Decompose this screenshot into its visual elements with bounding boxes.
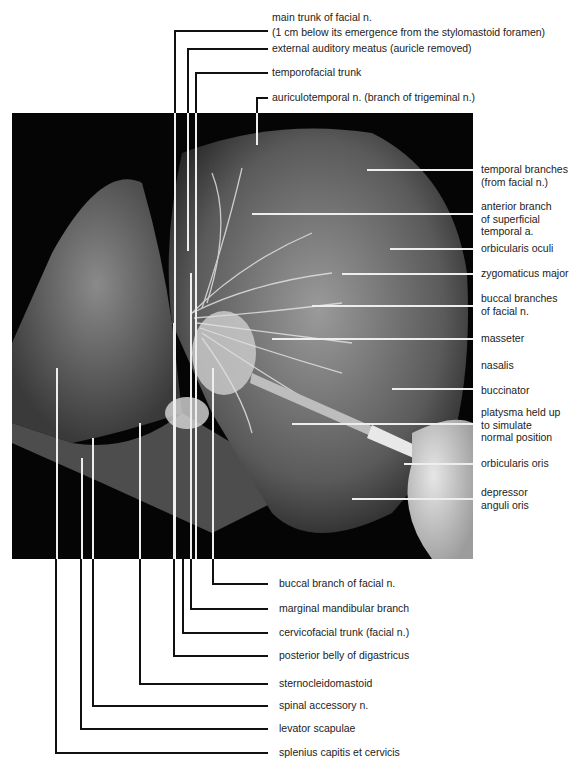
leader-splenius-v xyxy=(55,559,57,752)
label-line: masseter xyxy=(481,332,524,345)
label-external-auditory-meatus: external auditory meatus (auricle remove… xyxy=(272,42,472,55)
leader-buccal-branch-inside xyxy=(212,368,214,559)
label-line: spinal accessory n. xyxy=(279,699,368,712)
leader-marginal-h xyxy=(190,608,268,610)
leader-spinal-accessory-h xyxy=(92,705,268,707)
label-line: auriculotemporal n. (branch of trigemina… xyxy=(272,91,475,104)
leader-external-auditory-inside xyxy=(187,113,189,251)
leader-depressor xyxy=(352,498,473,500)
leader-orbicularis-oculi xyxy=(390,248,473,250)
label-line: depressor xyxy=(481,486,529,499)
label-line: posterior belly of digastricus xyxy=(279,649,409,662)
label-cervicofacial-trunk: cervicofacial trunk (facial n.) xyxy=(279,626,409,639)
label-buccal-branches: buccal branches of facial n. xyxy=(481,292,557,317)
leader-posterior-belly-inside xyxy=(173,323,175,559)
label-line: sternocleidomastoid xyxy=(279,677,372,690)
label-line: temporal branches xyxy=(481,163,568,176)
leader-zygomaticus xyxy=(342,273,473,275)
label-masseter: masseter xyxy=(481,332,524,345)
label-line: levator scapulae xyxy=(279,722,355,735)
label-nasalis: nasalis xyxy=(481,359,514,372)
leader-splenius-inside xyxy=(56,368,58,559)
leader-levator-v xyxy=(80,559,82,728)
label-line: buccal branches xyxy=(481,292,557,305)
label-orbicularis-oris: orbicularis oris xyxy=(481,457,549,470)
label-line: orbicularis oculi xyxy=(481,242,553,255)
leader-auriculotemporal-inside xyxy=(256,113,258,145)
label-line: anterior branch xyxy=(481,200,552,213)
leader-temporal-branches xyxy=(367,169,473,171)
leader-marginal-inside xyxy=(190,273,192,559)
label-line: buccinator xyxy=(481,384,529,397)
label-line: anguli oris xyxy=(481,499,529,512)
label-marginal-mandibular: marginal mandibular branch xyxy=(279,602,409,615)
leader-posterior-belly-h xyxy=(173,655,268,657)
leader-platysma xyxy=(292,423,473,425)
label-line: orbicularis oris xyxy=(481,457,549,470)
label-platysma: platysma held up to simulate normal posi… xyxy=(481,406,560,444)
leader-scm-h xyxy=(139,683,268,685)
label-line: zygomaticus major xyxy=(481,267,569,280)
label-levator-scapulae: levator scapulae xyxy=(279,722,355,735)
leader-marginal-v xyxy=(190,559,192,609)
leader-cervicofacial-v xyxy=(182,559,184,632)
leader-auriculotemporal-h xyxy=(256,97,268,99)
label-line: splenius capitis et cervicis xyxy=(279,746,400,759)
label-spinal-accessory: spinal accessory n. xyxy=(279,699,368,712)
leader-main-trunk-v xyxy=(174,30,176,113)
label-temporofacial-trunk: temporofacial trunk xyxy=(272,66,361,79)
leader-temporofacial-h xyxy=(195,72,268,74)
label-anterior-branch-sta: anterior branch of superficial temporal … xyxy=(481,200,552,238)
label-line: temporal a. xyxy=(481,225,552,238)
leader-temporofacial-v xyxy=(195,72,197,113)
leader-buccal-branch-h xyxy=(212,583,268,585)
label-line: (from facial n.) xyxy=(481,176,568,189)
label-line: main trunk of facial n. xyxy=(272,11,545,24)
label-line: buccal branch of facial n. xyxy=(279,577,395,590)
leader-buccinator xyxy=(392,388,473,390)
leader-orbicularis-oris xyxy=(404,463,473,465)
leader-anterior-branch xyxy=(252,213,473,215)
label-line: cervicofacial trunk (facial n.) xyxy=(279,626,409,639)
label-splenius: splenius capitis et cervicis xyxy=(279,746,400,759)
leader-scm-inside xyxy=(139,423,141,559)
label-line: of facial n. xyxy=(481,305,557,318)
label-line: normal position xyxy=(481,431,560,444)
leader-buccal-branches xyxy=(312,305,473,307)
label-main-trunk-facial: main trunk of facial n. (1 cm below its … xyxy=(272,11,545,38)
label-zygomaticus-major: zygomaticus major xyxy=(481,267,569,280)
leader-spinal-accessory-inside xyxy=(92,438,94,559)
leader-auriculotemporal-v xyxy=(256,97,258,113)
label-buccal-branch: buccal branch of facial n. xyxy=(279,577,395,590)
leader-main-trunk-h xyxy=(174,30,268,32)
dissection-photo xyxy=(12,113,473,559)
leader-levator-h xyxy=(80,728,268,730)
label-sternocleidomastoid: sternocleidomastoid xyxy=(279,677,372,690)
label-line: to simulate xyxy=(481,419,560,432)
leader-levator-inside xyxy=(81,458,83,559)
label-line: of superficial xyxy=(481,213,552,226)
label-line: platysma held up xyxy=(481,406,560,419)
leader-spinal-accessory-v xyxy=(92,559,94,705)
leader-external-auditory-v xyxy=(187,48,189,113)
leader-splenius-h xyxy=(55,752,268,754)
leader-cervicofacial-h xyxy=(182,632,268,634)
label-temporal-branches: temporal branches (from facial n.) xyxy=(481,163,568,188)
label-line: (1 cm below its emergence from the stylo… xyxy=(272,26,545,39)
label-depressor-anguli-oris: depressor anguli oris xyxy=(481,486,529,511)
leader-buccal-branch-v xyxy=(212,559,214,584)
label-line: external auditory meatus (auricle remove… xyxy=(272,42,472,55)
label-line: temporofacial trunk xyxy=(272,66,361,79)
label-line: nasalis xyxy=(481,359,514,372)
label-buccinator: buccinator xyxy=(481,384,529,397)
label-auriculotemporal: auriculotemporal n. (branch of trigemina… xyxy=(272,91,475,104)
leader-scm-v xyxy=(139,559,141,683)
label-posterior-belly-digastricus: posterior belly of digastricus xyxy=(279,649,409,662)
label-orbicularis-oculi: orbicularis oculi xyxy=(481,242,553,255)
leader-external-auditory-h xyxy=(187,48,268,50)
leader-temporofacial-inside xyxy=(195,113,197,559)
leader-posterior-belly-v xyxy=(173,559,175,655)
label-line: marginal mandibular branch xyxy=(279,602,409,615)
leader-masseter xyxy=(272,338,473,340)
